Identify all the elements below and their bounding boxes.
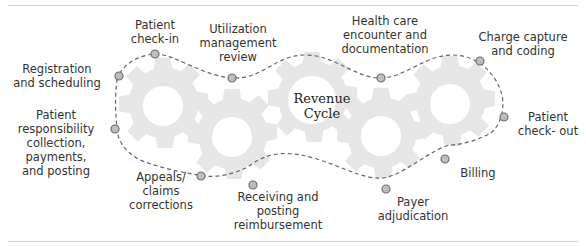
step-registration-label: Registration and scheduling [2,62,112,90]
step-receiving-label: Receiving and posting reimbursement [228,190,328,232]
bottom-divider [8,241,578,242]
gear-icon [188,89,277,179]
node-registration [115,72,123,80]
step-appeals-label: Appeals/ claims corrections [124,170,198,212]
node-payer [382,185,390,193]
step-encounter-label: Health care encounter and documentation [335,14,435,56]
step-billing-label: Billing [448,166,508,180]
node-charge-capture [476,57,484,65]
step-patient-responsibility-label: Patient responsibility collection, payme… [4,108,108,178]
gear-icon [406,56,495,146]
node-encounter [377,74,385,82]
node-receiving [249,181,257,189]
node-utilization [228,74,236,82]
step-utilization-label: Utilization management review [193,22,283,64]
step-charge-capture-label: Charge capture and coding [468,30,578,58]
step-check-out-label: Patient check- out [508,110,586,138]
node-patient-responsibility [111,125,119,133]
diagram-title: Revenue Cycle [292,91,352,121]
step-check-in-label: Patient check-in [115,18,195,46]
node-check-out [500,113,508,121]
node-appeals [197,172,205,180]
node-billing [441,155,449,163]
node-check-in [151,50,159,58]
step-payer-label: Payer adjudication [368,195,458,223]
